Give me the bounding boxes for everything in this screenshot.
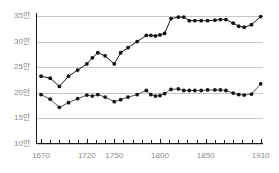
data-point <box>158 33 162 37</box>
data-point <box>199 19 203 23</box>
data-point <box>48 76 52 80</box>
y-tick-label-15만: 15만 <box>2 113 30 122</box>
y-tick-label-10만: 10만 <box>2 139 30 148</box>
data-point <box>126 95 130 99</box>
data-point <box>85 93 89 97</box>
x-tick-label-1720: 1720 <box>72 151 102 160</box>
x-tick-label-1750: 1750 <box>99 151 129 160</box>
data-point <box>206 19 210 23</box>
chart-container: 10만15만20만25만30만35만 167017201750180018501… <box>0 0 279 173</box>
data-point <box>112 100 116 104</box>
data-point <box>103 54 107 58</box>
data-point <box>219 88 223 92</box>
data-series <box>39 15 262 110</box>
data-point <box>199 89 203 93</box>
data-point <box>149 93 153 97</box>
series-upper-series <box>39 15 262 89</box>
data-point <box>242 25 246 29</box>
data-point <box>119 98 123 102</box>
data-point <box>119 51 123 55</box>
data-point <box>176 87 180 91</box>
data-point <box>182 15 186 19</box>
data-point <box>57 105 61 109</box>
data-point <box>48 97 52 101</box>
data-point <box>96 51 100 55</box>
data-point <box>187 89 191 93</box>
data-point <box>231 91 235 95</box>
y-tick-label-20만: 20만 <box>2 88 30 97</box>
data-point <box>57 85 61 89</box>
data-point <box>193 89 197 93</box>
data-point <box>158 94 162 98</box>
data-point <box>90 94 94 98</box>
x-tick-label-1670: 1670 <box>26 151 56 160</box>
data-point <box>213 18 217 22</box>
data-point <box>237 24 241 28</box>
data-point <box>259 15 263 19</box>
series-lower-series <box>39 82 262 109</box>
data-point <box>250 23 254 27</box>
data-point <box>193 19 197 23</box>
data-point <box>85 62 89 66</box>
data-point <box>39 74 43 78</box>
data-point <box>213 88 217 92</box>
x-tick-label-1800: 1800 <box>145 151 175 160</box>
data-point <box>163 31 167 35</box>
data-point <box>76 68 80 72</box>
data-point <box>169 88 173 92</box>
data-point <box>206 88 210 92</box>
data-point <box>169 17 173 21</box>
data-point <box>182 89 186 93</box>
data-point <box>163 92 167 96</box>
data-point <box>224 89 228 93</box>
line-chart-plot <box>0 0 279 173</box>
data-point <box>154 94 158 98</box>
data-point <box>67 74 71 78</box>
data-point <box>176 15 180 19</box>
y-tick-label-30만: 30만 <box>2 37 30 46</box>
data-point <box>154 34 158 38</box>
data-point <box>231 21 235 25</box>
data-point <box>135 93 139 97</box>
data-point <box>237 93 241 97</box>
data-point <box>187 19 191 23</box>
data-point <box>135 40 139 44</box>
data-point <box>224 18 228 22</box>
data-point <box>219 18 223 22</box>
data-point <box>67 101 71 105</box>
data-point <box>90 56 94 60</box>
data-point <box>103 95 107 99</box>
data-point <box>76 97 80 101</box>
data-point <box>112 62 116 66</box>
data-point <box>126 46 130 50</box>
data-point <box>149 34 153 38</box>
data-point <box>259 82 263 86</box>
data-point <box>39 93 43 97</box>
data-point <box>250 92 254 96</box>
y-tick-label-35만: 35만 <box>2 11 30 20</box>
x-tick-label-1910: 1910 <box>246 151 276 160</box>
series-line <box>41 17 261 87</box>
data-point <box>144 89 148 93</box>
axis-lines <box>36 13 263 144</box>
data-point <box>242 93 246 97</box>
data-point <box>144 34 148 38</box>
x-tick-label-1850: 1850 <box>191 151 221 160</box>
data-point <box>96 93 100 97</box>
y-tick-label-25만: 25만 <box>2 62 30 71</box>
